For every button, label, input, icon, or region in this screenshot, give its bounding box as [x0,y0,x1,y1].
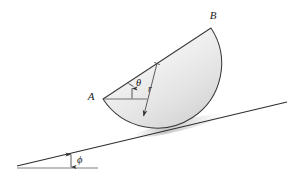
physics-diagram-figure: A B θ r ϕ [0,0,293,181]
diagram-canvas: A B θ r ϕ [0,0,293,181]
semicircular-disk [103,28,222,128]
label-angle-phi: ϕ [77,154,83,165]
label-point-a: A [87,90,95,102]
label-radius-r: r [148,84,152,94]
label-point-b: B [210,9,217,21]
label-angle-theta: θ [136,77,141,88]
